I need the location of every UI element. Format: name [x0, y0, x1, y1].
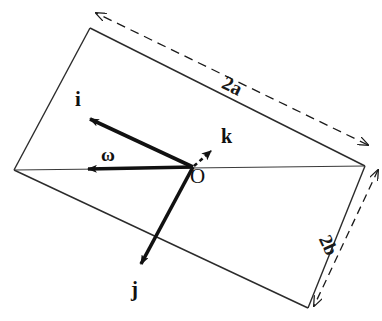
vector-omega-shaft [88, 167, 193, 169]
plate-edge-bottom [14, 170, 308, 308]
vector-j-shaft [141, 167, 193, 264]
origin-label: O [190, 166, 205, 187]
vector-label-omega: ω [101, 145, 115, 164]
vector-label-j: j [131, 279, 138, 300]
figure-canvas: i j k ω O 2a 2b [0, 0, 382, 321]
vector-label-i: i [75, 89, 81, 110]
vector-omega [88, 167, 193, 169]
diagram-svg [0, 0, 382, 321]
vector-j [141, 167, 193, 264]
vector-label-k: k [221, 126, 232, 146]
